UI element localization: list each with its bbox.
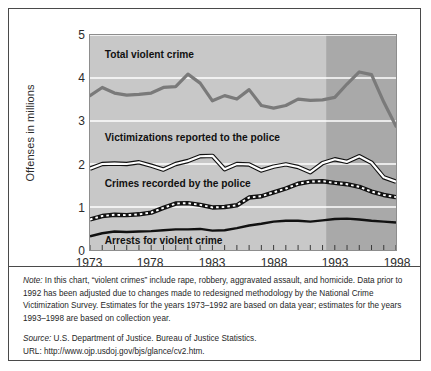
y-tick-4: 4 [67, 72, 85, 84]
y-tick-5: 5 [67, 29, 85, 41]
inline-label-0: Total violent crime [105, 49, 195, 60]
inline-label-1: Victimizations reported to the police [105, 132, 281, 143]
figure-frame: Offenses in millions 5 4 3 2 1 0 Total v… [8, 8, 421, 361]
plot-canvas: Total violent crimeVictimizations report… [89, 34, 397, 251]
source-paragraph: Source: U.S. Department of Justice. Bure… [23, 333, 406, 346]
y-axis-tick-labels: 5 4 3 2 1 0 [65, 9, 85, 264]
note-body: In this chart, “violent crimes” include … [23, 276, 402, 323]
plot-bg-shaded [326, 35, 396, 250]
source-body: U.S. Department of Justice. Bureau of Ju… [51, 334, 256, 343]
y-axis-title: Offenses in millions [24, 48, 36, 218]
y-tick-1: 1 [67, 202, 85, 214]
note-paragraph: Note: In this chart, “violent crimes” in… [23, 275, 406, 326]
series-plot: Total violent crimeVictimizations report… [90, 35, 396, 250]
source-prefix: Source: [23, 334, 51, 343]
source-url: URL: http://www.ojp.usdoj.gov/bjs/glance… [23, 346, 406, 359]
y-tick-3: 3 [67, 115, 85, 127]
inline-label-3: Arrests for violent crime [105, 235, 223, 246]
note-prefix: Note: [23, 276, 43, 285]
footnote-block: Note: In this chart, “violent crimes” in… [9, 266, 420, 360]
y-tick-2: 2 [67, 159, 85, 171]
inline-label-2: Crimes recorded by the police [105, 178, 251, 189]
chart-area: Offenses in millions 5 4 3 2 1 0 Total v… [9, 9, 420, 264]
